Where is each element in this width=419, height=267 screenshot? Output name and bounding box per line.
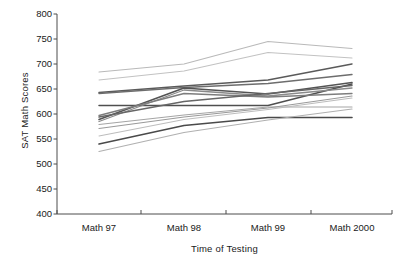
data-line-series-10 [99,96,352,129]
x-tick-label-2: Math 99 [223,222,313,234]
x-axis-tick-labels: Math 97Math 98Math 99Math 2000 [0,222,419,238]
x-tick-label-3: Math 2000 [307,222,397,234]
data-line-series-12 [99,118,352,145]
data-line-series-1 [99,42,352,73]
data-line-series-2 [99,53,352,81]
x-tick-label-0: Math 97 [54,222,144,234]
data-series-group [99,42,352,152]
data-line-series-13 [99,109,352,152]
x-axis-title: Time of Testing [57,243,392,254]
chart-figure: SAT Math Scores 400450500550600650700750… [0,0,419,267]
x-tick-label-1: Math 98 [139,222,229,234]
